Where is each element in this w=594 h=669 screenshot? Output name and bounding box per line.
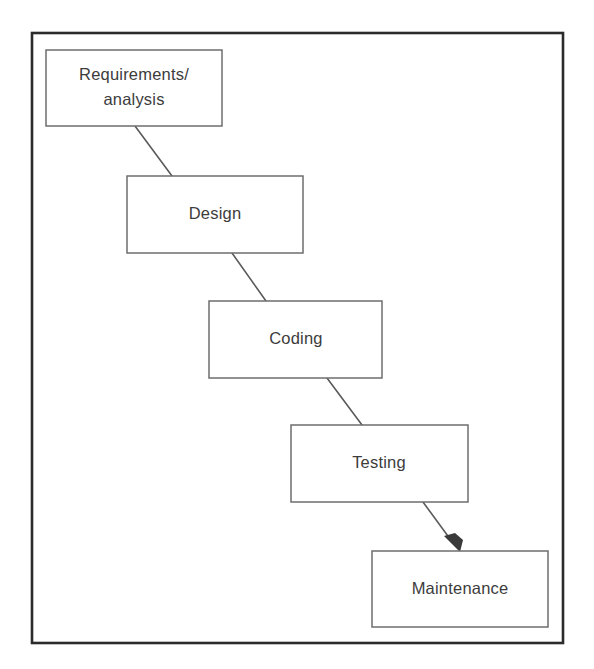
stage-box-coding: Coding <box>209 301 382 378</box>
stage-box-testing: Testing <box>291 425 468 502</box>
stage-label-coding: Coding <box>269 329 323 347</box>
stage-box-design: Design <box>127 176 303 253</box>
stage-box-maintenance: Maintenance <box>372 551 548 627</box>
stage-label-requirements-line2: analysis <box>103 90 164 108</box>
stage-rect-requirements <box>46 50 222 126</box>
stage-label-maintenance: Maintenance <box>412 579 509 597</box>
stage-box-requirements: Requirements/ analysis <box>46 50 222 126</box>
stage-label-design: Design <box>189 204 242 222</box>
waterfall-diagram: Requirements/ analysis Design Coding Tes… <box>0 0 594 669</box>
stage-label-requirements-line1: Requirements/ <box>79 65 189 83</box>
stage-label-testing: Testing <box>352 453 406 471</box>
diagram-canvas: Requirements/ analysis Design Coding Tes… <box>0 0 594 669</box>
